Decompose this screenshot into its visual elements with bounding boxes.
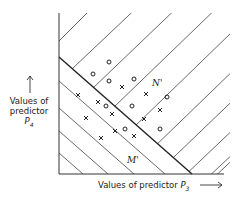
region-n-prime-label: N' <box>151 78 162 88</box>
decision-boundary <box>59 57 192 174</box>
x-axis-arrow-icon <box>200 182 222 188</box>
y-axis-label-line-2: predictor <box>2 106 56 116</box>
region-m-prime-label: M' <box>126 155 139 165</box>
y-axis-label-line-1: Values of <box>2 96 56 106</box>
upper-region-hatching <box>40 0 234 200</box>
lower-region-hatching <box>59 81 165 174</box>
y-axis-label: Values of predictor P4 <box>2 96 56 130</box>
x-axis-label-text: Values of predictor <box>98 180 178 190</box>
x-axis-label: Values of predictor P3 <box>98 180 189 194</box>
y-axis-variable: P4 <box>2 116 56 130</box>
x-axis-variable: P3 <box>180 180 189 190</box>
y-axis-arrow-icon <box>27 76 33 93</box>
